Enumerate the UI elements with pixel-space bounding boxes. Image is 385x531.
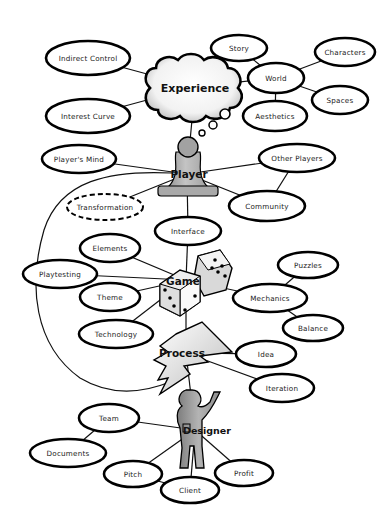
node-label: Iteration (266, 384, 298, 393)
node-label: Mechanics (250, 294, 290, 303)
node-mechanics[interactable]: Mechanics (233, 284, 307, 312)
node-technology[interactable]: Technology (79, 320, 153, 348)
experience-hub[interactable]: Experience (146, 54, 242, 136)
node-label: Other Players (271, 154, 322, 163)
node-idea[interactable]: Idea (236, 341, 296, 367)
node-label: Elements (92, 244, 127, 253)
node-label: Playtesting (39, 270, 81, 279)
node-label: Team (98, 414, 119, 423)
pawn-head (178, 137, 198, 157)
node-label: Transformation (76, 203, 134, 212)
node-characters[interactable]: Characters (315, 38, 375, 66)
node-label: Puzzles (294, 261, 322, 270)
player-hub[interactable]: Player (158, 137, 218, 196)
node-community[interactable]: Community (229, 191, 305, 221)
node-playtesting[interactable]: Playtesting (23, 260, 97, 288)
node-interest-curve[interactable]: Interest Curve (46, 99, 130, 133)
process-label: Process (159, 347, 205, 359)
player-label: Player (170, 168, 208, 180)
node-spaces[interactable]: Spaces (312, 86, 368, 114)
node-other-players[interactable]: Other Players (259, 144, 335, 172)
game-label: Game (166, 275, 200, 287)
node-label: Pitch (124, 470, 143, 479)
node-label: Aesthetics (255, 112, 294, 121)
node-client[interactable]: Client (161, 477, 219, 503)
node-label: World (265, 74, 287, 83)
node-profit[interactable]: Profit (215, 460, 273, 486)
node-label: Interest Curve (61, 112, 115, 121)
node-aesthetics[interactable]: Aesthetics (243, 101, 307, 131)
node-label: Interface (171, 227, 205, 236)
thought-bubble-icon (209, 121, 217, 129)
node-label: Theme (96, 293, 123, 302)
designer-label: Designer (183, 425, 231, 436)
node-label: Client (179, 486, 201, 495)
diagram-canvas: Experience Player (0, 0, 385, 531)
process-hub[interactable]: Process (154, 322, 232, 394)
node-label: Balance (298, 324, 328, 333)
node-pitch[interactable]: Pitch (104, 461, 162, 487)
node-theme[interactable]: Theme (80, 283, 140, 311)
pawn-base (158, 186, 218, 196)
node-iteration[interactable]: Iteration (250, 374, 314, 402)
node-interface[interactable]: Interface (155, 217, 221, 245)
experience-label: Experience (161, 82, 229, 95)
node-indirect-control[interactable]: Indirect Control (46, 41, 130, 75)
game-design-lens-diagram: Experience Player (0, 0, 385, 531)
thought-bubble-icon (199, 130, 205, 136)
node-label: Player's Mind (54, 155, 104, 164)
node-label: Documents (47, 449, 90, 458)
node-label: Story (229, 44, 250, 53)
node-label: Characters (324, 48, 365, 57)
node-label: Idea (258, 350, 274, 359)
node-puzzles[interactable]: Puzzles (278, 252, 338, 278)
node-players-mind[interactable]: Player's Mind (42, 145, 116, 173)
node-world[interactable]: World (248, 63, 304, 93)
node-balance[interactable]: Balance (283, 315, 343, 341)
node-label: Profit (234, 469, 254, 478)
node-team[interactable]: Team (79, 404, 139, 432)
game-hub[interactable]: Game (160, 250, 232, 316)
designer-hub[interactable]: Designer (177, 390, 231, 468)
node-label: Spaces (327, 96, 354, 105)
node-label: Community (245, 202, 289, 211)
node-label: Indirect Control (59, 54, 118, 63)
node-elements[interactable]: Elements (80, 234, 140, 262)
node-story[interactable]: Story (211, 35, 267, 61)
node-transformation[interactable]: Transformation (67, 194, 143, 220)
node-documents[interactable]: Documents (30, 439, 106, 467)
node-label: Technology (94, 330, 138, 339)
thought-bubble-icon (220, 109, 230, 119)
